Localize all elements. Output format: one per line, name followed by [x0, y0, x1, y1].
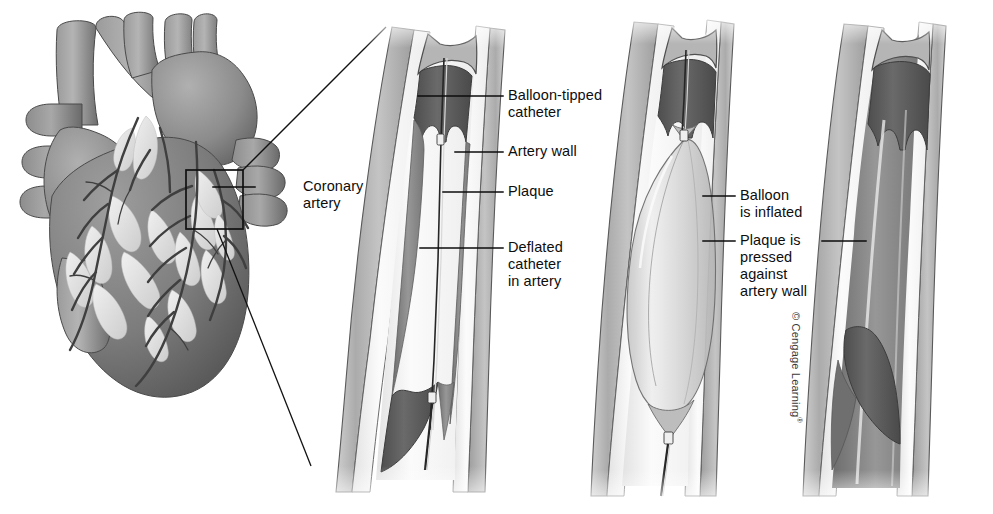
label-balloon-is-inflated: Balloon is inflated: [740, 187, 802, 221]
panel-1-bottom-fade: [330, 466, 520, 514]
panel-3-top-fade: [790, 10, 970, 44]
copyright-notice: © Cengage Learning®: [790, 312, 804, 502]
copyright-text: © Cengage Learning: [790, 312, 802, 417]
panel-3-bottom-fade: [790, 470, 970, 514]
catheter-marker-upper-2: [680, 130, 688, 141]
label-coronary-artery: Coronary artery: [303, 178, 363, 212]
catheter-marker-upper: [437, 134, 444, 145]
label-artery-wall: Artery wall: [508, 143, 577, 160]
label-deflated-catheter-in-artery: Deflated catheter in artery: [508, 239, 563, 290]
panel-2-bottom-fade: [580, 470, 745, 514]
panel-1-top-fade: [330, 14, 520, 48]
angioplasty-figure: [0, 0, 993, 514]
panel-2-top-fade: [580, 10, 745, 44]
label-plaque-is-pressed-against-artery-wall: Plaque is pressed against artery wall: [740, 232, 807, 300]
label-plaque: Plaque: [508, 183, 554, 200]
registered-mark: ®: [795, 417, 804, 423]
catheter-marker-lower-2: [664, 432, 673, 444]
label-balloon-tipped-catheter: Balloon-tipped catheter: [508, 87, 602, 121]
catheter-marker-lower: [428, 392, 436, 403]
